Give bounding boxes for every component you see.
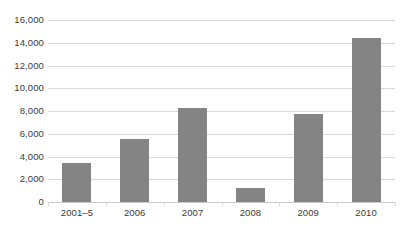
bar-chart: 02,0004,0006,0008,00010,00012,00014,0001… (0, 0, 408, 235)
y-axis-tick-label: 8,000 (0, 106, 44, 116)
y-axis-tick-label: 16,000 (0, 15, 44, 25)
bar (62, 163, 91, 202)
x-axis-tick (279, 202, 280, 206)
y-axis-tick-label: 10,000 (0, 84, 44, 94)
bar (236, 188, 265, 202)
x-axis-tick (337, 202, 338, 206)
bar-group (279, 20, 337, 202)
x-axis-tick (106, 202, 107, 206)
y-axis-tick-label: 0 (0, 197, 44, 207)
bar (352, 38, 381, 202)
bar-group (48, 20, 106, 202)
y-axis-tick-label: 14,000 (0, 38, 44, 48)
bar-group (106, 20, 164, 202)
bar (120, 139, 149, 202)
bar-group (222, 20, 280, 202)
x-axis-tick-label: 2001–5 (48, 208, 106, 218)
y-axis-tick-label: 12,000 (0, 61, 44, 71)
y-axis-labels: 02,0004,0006,0008,00010,00012,00014,0001… (0, 0, 44, 235)
x-axis-tick-label: 2009 (279, 208, 337, 218)
x-axis-tick-label: 2006 (106, 208, 164, 218)
bar (178, 108, 207, 202)
y-axis-tick-label: 2,000 (0, 175, 44, 185)
bar-group (337, 20, 395, 202)
y-axis-tick-label: 6,000 (0, 129, 44, 139)
x-axis-tick (164, 202, 165, 206)
bars (48, 20, 395, 202)
x-axis-tick (48, 202, 49, 206)
y-axis-tick-label: 4,000 (0, 152, 44, 162)
x-axis-tick (222, 202, 223, 206)
bar-group (164, 20, 222, 202)
plot-area (48, 20, 395, 202)
bar (294, 114, 323, 202)
x-axis-tick (395, 202, 396, 206)
x-axis-tick-label: 2007 (164, 208, 222, 218)
x-axis-tick-label: 2010 (337, 208, 395, 218)
x-axis-labels: 2001–520062007200820092010 (48, 208, 395, 228)
x-axis-tick-label: 2008 (222, 208, 280, 218)
